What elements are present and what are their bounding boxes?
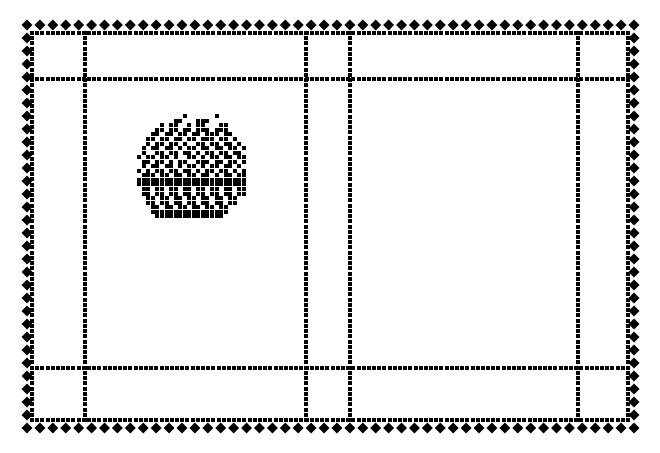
cross-stitch-pattern-chart [0,0,660,453]
